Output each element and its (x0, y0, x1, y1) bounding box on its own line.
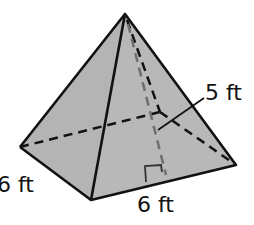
pyramid-diagram: 5 ft 6 ft 6 ft (0, 0, 254, 225)
label-base-left: 6 ft (0, 172, 34, 197)
label-base-front: 6 ft (137, 192, 174, 217)
label-slant-height: 5 ft (205, 80, 242, 105)
